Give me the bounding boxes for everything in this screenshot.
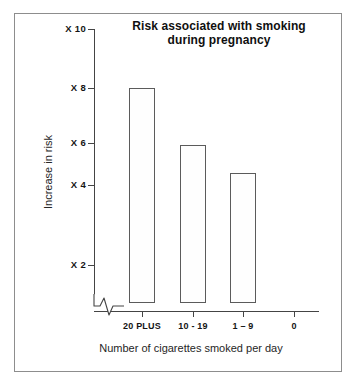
y-axis-tick — [88, 265, 94, 266]
x-axis-tick — [294, 311, 295, 317]
y-axis-tick — [88, 185, 94, 186]
y-axis-line — [94, 29, 95, 301]
bar-1-9 — [230, 173, 256, 303]
axis-break-icon — [92, 294, 124, 318]
y-axis-tick — [88, 143, 94, 144]
y-axis-tick — [88, 88, 94, 89]
x-axis-tick-label: 20 PLUS — [112, 321, 172, 332]
y-axis-tick-label: X 10 — [65, 24, 86, 34]
x-axis-tick-label: 10 - 19 — [165, 321, 221, 332]
bar-20-plus — [129, 88, 155, 303]
chart-title-line-2: during pregnancy — [104, 33, 334, 47]
y-axis-tick-label: X 6 — [71, 138, 86, 148]
x-axis-tick — [193, 311, 194, 317]
x-axis-tick-label: 1 – 9 — [217, 321, 269, 332]
x-axis-title: Number of cigarettes smoked per day — [56, 342, 326, 354]
chart-figure: Risk associated with smoking during preg… — [0, 0, 358, 390]
y-axis-tick-label: X 8 — [71, 83, 86, 93]
y-axis-tick-label: X 4 — [71, 180, 86, 190]
y-axis-tick — [88, 29, 94, 30]
x-axis-tick-label: 0 — [274, 321, 314, 332]
y-axis-tick-label: X 2 — [71, 260, 86, 270]
chart-title: Risk associated with smoking during preg… — [104, 19, 334, 47]
y-axis-title: Increase in risk — [42, 107, 54, 237]
bar-10-19 — [180, 145, 206, 303]
x-axis-tick — [243, 311, 244, 317]
chart-title-line-1: Risk associated with smoking — [132, 19, 306, 33]
x-axis-line — [94, 311, 319, 312]
plot-area: Risk associated with smoking during preg… — [0, 0, 358, 390]
x-axis-tick — [142, 311, 143, 317]
